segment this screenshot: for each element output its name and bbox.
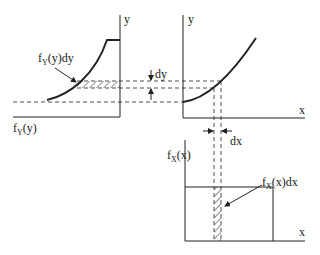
left-panel-fy: y fY(y)dy fY(y) (13, 12, 130, 137)
dy-label: dy (155, 67, 167, 81)
fy-axis-label: fY(y) (13, 121, 37, 137)
right-y-axis-label: y (188, 12, 194, 26)
dx-label: dx (230, 134, 242, 148)
diagram-canvas: y fY(y)dy fY(y) dy y x dx fX(x) f (0, 0, 320, 255)
fy-hatched-strip (77, 81, 120, 88)
fy-dy-annotation: fY(y)dy (38, 51, 74, 67)
transform-curve (183, 38, 256, 102)
left-y-axis-label: y (124, 12, 130, 26)
top-right-panel-transform: y x (183, 12, 305, 118)
bottom-panel-fx: fX(x) fX(x)dx x (167, 140, 305, 241)
fx-dx-annotation: fX(x)dx (262, 175, 298, 191)
dy-indicator: dy (151, 67, 167, 100)
right-x-axis-label: x (299, 103, 305, 117)
fx-hatched-strip (214, 187, 221, 241)
fy-annotation-arrow (55, 68, 76, 82)
fx-axis-label: fX(x) (167, 148, 191, 164)
fx-annotation-arrow (225, 185, 262, 206)
dx-indicator: dx (203, 131, 242, 148)
bottom-x-axis-label: x (299, 225, 305, 239)
fx-uniform-density (185, 187, 273, 241)
